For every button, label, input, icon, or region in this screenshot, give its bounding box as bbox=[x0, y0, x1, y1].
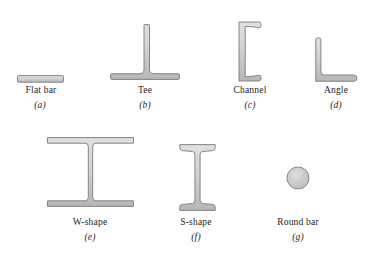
flat-bar-letter: (a) bbox=[34, 100, 46, 111]
tee-cross-section bbox=[110, 24, 180, 80]
angle-cross-section bbox=[315, 37, 358, 82]
round-bar-letter: (g) bbox=[292, 232, 304, 243]
flat-bar-cross-section bbox=[17, 75, 64, 83]
s-shape-letter: (f) bbox=[191, 232, 201, 243]
s-shape-label: S-shape bbox=[180, 217, 211, 228]
angle-label: Angle bbox=[324, 85, 348, 96]
channel-cross-section bbox=[238, 21, 262, 82]
channel-letter: (c) bbox=[244, 100, 255, 111]
w-shape-label: W-shape bbox=[73, 217, 108, 228]
round-bar-label: Round bar bbox=[277, 217, 319, 228]
w-shape-letter: (e) bbox=[84, 232, 95, 243]
w-shape-cross-section bbox=[47, 137, 134, 207]
angle-letter: (d) bbox=[330, 100, 342, 111]
channel-label: Channel bbox=[233, 85, 266, 96]
s-shape-cross-section bbox=[179, 144, 216, 211]
tee-label: Tee bbox=[138, 85, 152, 96]
tee-letter: (b) bbox=[139, 100, 151, 111]
flat-bar-label: Flat bar bbox=[26, 85, 57, 96]
structural-shapes-figure: Flat bar (a) Tee (b) Channel (c) Angle (… bbox=[0, 0, 374, 254]
round-bar-cross-section bbox=[286, 166, 310, 190]
